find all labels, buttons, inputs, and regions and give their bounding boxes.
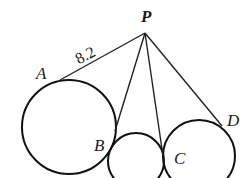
middle-circle bbox=[108, 133, 164, 178]
label-a: A bbox=[35, 64, 47, 83]
label-p: P bbox=[140, 7, 152, 26]
length-label-pa: 8.2 bbox=[72, 43, 98, 67]
label-b: B bbox=[94, 136, 105, 155]
tangent-diagram: P A B C D 8.2 bbox=[0, 0, 243, 178]
label-c: C bbox=[174, 149, 186, 168]
label-d: D bbox=[226, 111, 240, 130]
left-circle bbox=[22, 80, 116, 174]
